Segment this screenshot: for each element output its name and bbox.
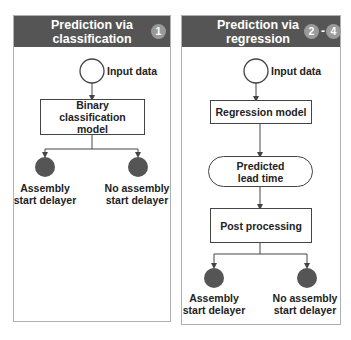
outcome-end-icon [128, 157, 148, 177]
outcome-line-2: start delayer [14, 194, 76, 206]
input-data-label: Input data [107, 65, 157, 77]
outcome-line-2: start delayer [183, 304, 245, 316]
outcome-line-1: No assembly [105, 182, 170, 194]
outcome-line-1: Assembly [189, 292, 239, 304]
input-start-icon [244, 59, 268, 83]
input-data-label: Input data [271, 65, 321, 77]
outcome-end-icon [35, 157, 55, 177]
outcome-end-icon [204, 268, 224, 288]
outcome-no-assembly-start-delayer: No assembly start delayer [273, 292, 338, 316]
outcome-end-icon [297, 268, 317, 288]
outcome-line-2: start delayer [106, 194, 168, 206]
outcome-line-2: start delayer [274, 304, 336, 316]
binary-classification-model-node: Binary classification model [40, 99, 145, 135]
outcome-line-1: Assembly [20, 182, 70, 194]
input-start-icon [80, 59, 104, 83]
regression-model-node: Regression model [210, 100, 312, 124]
predicted-lead-time-node: Predicted lead time [208, 156, 313, 187]
outcome-no-assembly-start-delayer: No assembly start delayer [105, 182, 170, 206]
post-processing-node: Post processing [210, 208, 312, 243]
outcome-assembly-start-delayer: Assembly start delayer [183, 292, 245, 316]
outcome-line-1: No assembly [273, 292, 338, 304]
outcome-assembly-start-delayer: Assembly start delayer [14, 182, 76, 206]
